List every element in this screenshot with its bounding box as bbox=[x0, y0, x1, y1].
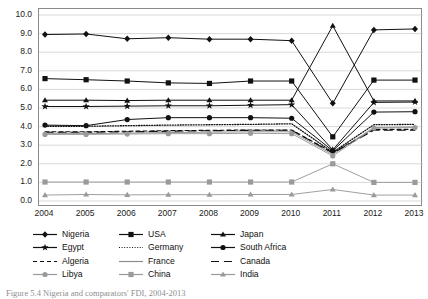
legend-marker-icon bbox=[32, 229, 58, 240]
legend-marker-icon bbox=[210, 229, 236, 240]
series-india bbox=[42, 186, 418, 197]
legend-marker-icon bbox=[118, 269, 144, 280]
x-axis: 2004200520062007200820092010201120122013 bbox=[38, 208, 422, 222]
y-tick-label: 4.0 bbox=[20, 121, 32, 130]
legend-marker-icon bbox=[118, 242, 144, 253]
legend-label: India bbox=[240, 270, 259, 279]
x-tick-label: 2009 bbox=[240, 208, 259, 218]
series-china bbox=[42, 161, 417, 185]
chart-svg bbox=[39, 9, 423, 207]
legend-label: South Africa bbox=[240, 243, 286, 252]
y-tick-label: 8.0 bbox=[20, 47, 32, 56]
legend-item-china[interactable]: China bbox=[118, 268, 210, 281]
figure-caption: Figure 5.4 Nigeria and comparators' FDI,… bbox=[6, 287, 422, 299]
legend-row: LibyaChinaIndia bbox=[32, 268, 332, 281]
legend-marker-icon bbox=[32, 269, 58, 280]
series-south-africa bbox=[42, 109, 417, 153]
plot-area bbox=[38, 8, 422, 206]
y-tick-label: 9.0 bbox=[20, 28, 32, 37]
legend-item-algeria[interactable]: Algeria bbox=[32, 255, 118, 268]
legend-label: Algeria bbox=[62, 257, 89, 266]
legend-marker-icon bbox=[210, 269, 236, 280]
legend-row: EgyptGermanySouth Africa bbox=[32, 241, 332, 254]
figure-container: 0.01.02.03.04.05.06.07.08.09.010.0 20042… bbox=[0, 0, 428, 299]
x-tick-label: 2006 bbox=[117, 208, 136, 218]
legend-item-usa[interactable]: USA bbox=[118, 228, 210, 241]
series-france bbox=[45, 127, 415, 155]
y-tick-label: 5.0 bbox=[20, 103, 32, 112]
legend-marker-icon bbox=[118, 256, 144, 267]
legend-label: Libya bbox=[62, 270, 83, 279]
legend-label: Egypt bbox=[62, 243, 84, 252]
legend-row: AlgeriaFranceCanada bbox=[32, 255, 332, 268]
x-tick-label: 2007 bbox=[158, 208, 177, 218]
legend-label: France bbox=[148, 257, 175, 266]
y-tick-label: 2.0 bbox=[20, 159, 32, 168]
chart-legend: NigeriaUSAJapanEgyptGermanySouth AfricaA… bbox=[32, 228, 332, 282]
legend-marker-icon bbox=[118, 229, 144, 240]
x-tick-label: 2005 bbox=[76, 208, 95, 218]
series-japan bbox=[42, 23, 418, 103]
legend-label: Canada bbox=[240, 257, 270, 266]
y-tick-label: 10.0 bbox=[15, 10, 32, 19]
gridlines bbox=[39, 15, 423, 201]
x-tick-label: 2013 bbox=[405, 208, 424, 218]
y-tick-label: 0.0 bbox=[20, 196, 32, 205]
x-tick-label: 2004 bbox=[35, 208, 54, 218]
x-tick-label: 2011 bbox=[323, 208, 341, 218]
legend-row: NigeriaUSAJapan bbox=[32, 228, 332, 241]
legend-item-japan[interactable]: Japan bbox=[210, 228, 332, 241]
legend-item-libya[interactable]: Libya bbox=[32, 268, 118, 281]
series-nigeria bbox=[42, 26, 418, 107]
x-tick-label: 2010 bbox=[281, 208, 300, 218]
legend-label: Germany bbox=[148, 243, 183, 252]
y-tick-label: 6.0 bbox=[20, 84, 32, 93]
series-algeria bbox=[45, 129, 415, 152]
legend-marker-icon bbox=[210, 256, 236, 267]
legend-label: China bbox=[148, 270, 170, 279]
legend-item-egypt[interactable]: Egypt bbox=[32, 241, 118, 254]
legend-item-india[interactable]: India bbox=[210, 268, 332, 281]
y-axis: 0.01.02.03.04.05.06.07.08.09.010.0 bbox=[0, 0, 36, 206]
legend-item-nigeria[interactable]: Nigeria bbox=[32, 228, 118, 241]
x-tick-label: 2008 bbox=[199, 208, 218, 218]
legend-item-france[interactable]: France bbox=[118, 255, 210, 268]
legend-label: Japan bbox=[240, 230, 263, 239]
legend-item-south-africa[interactable]: South Africa bbox=[210, 241, 332, 254]
legend-label: USA bbox=[148, 230, 166, 239]
y-tick-label: 3.0 bbox=[20, 140, 32, 149]
legend-label: Nigeria bbox=[62, 230, 89, 239]
y-tick-label: 1.0 bbox=[20, 177, 32, 186]
legend-marker-icon bbox=[32, 242, 58, 253]
y-tick-label: 7.0 bbox=[20, 66, 32, 75]
legend-item-canada[interactable]: Canada bbox=[210, 255, 332, 268]
legend-item-germany[interactable]: Germany bbox=[118, 241, 210, 254]
legend-marker-icon bbox=[32, 256, 58, 267]
legend-marker-icon bbox=[210, 242, 236, 253]
x-tick-label: 2012 bbox=[363, 208, 382, 218]
